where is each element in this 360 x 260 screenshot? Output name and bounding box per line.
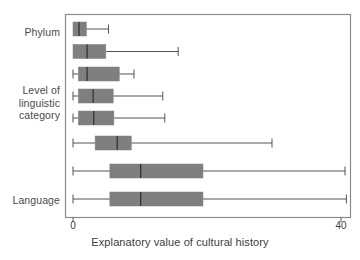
boxplot-series-row-6 bbox=[73, 136, 272, 150]
boxplot-series-row-4 bbox=[73, 89, 163, 103]
boxplot-series-row-3 bbox=[73, 67, 134, 81]
box bbox=[95, 136, 131, 150]
x-tick-label-0: 0 bbox=[63, 220, 83, 231]
boxplot-series-row-5 bbox=[73, 111, 165, 125]
box bbox=[73, 45, 106, 59]
boxplot-series-row-2 bbox=[73, 45, 178, 59]
boxplot-canvas bbox=[0, 0, 360, 260]
boxplot-series-Phylum bbox=[73, 22, 109, 36]
box bbox=[110, 164, 203, 178]
boxplot-series-row-7 bbox=[73, 164, 345, 178]
x-axis-title: Explanatory value of cultural history bbox=[0, 236, 360, 248]
boxplot-series-Language bbox=[73, 192, 346, 206]
box bbox=[78, 111, 114, 125]
box bbox=[110, 192, 203, 206]
box bbox=[78, 89, 113, 103]
box bbox=[73, 22, 86, 36]
x-tick-label-40: 40 bbox=[331, 220, 351, 231]
boxplot-figure: Phylum Level of linguistic category Lang… bbox=[0, 0, 360, 260]
box bbox=[78, 67, 119, 81]
